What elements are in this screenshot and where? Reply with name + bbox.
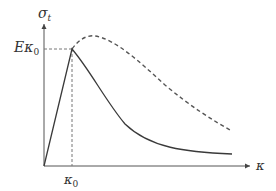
- diagram-canvas: [0, 0, 276, 191]
- x-axis-label: κ: [256, 159, 265, 172]
- kappa0-symbol: κ: [64, 172, 73, 187]
- kappa0-subscript: 0: [73, 179, 79, 189]
- y-axis-label: σt: [38, 6, 51, 20]
- sigma-symbol: σ: [38, 5, 48, 21]
- y-tick-label: Eκ0: [14, 40, 39, 54]
- sigma-subscript: t: [48, 13, 52, 23]
- x-tick-label: κ0: [64, 173, 78, 186]
- e-prefix: E: [14, 39, 24, 55]
- kappa-subscript: 0: [33, 47, 39, 57]
